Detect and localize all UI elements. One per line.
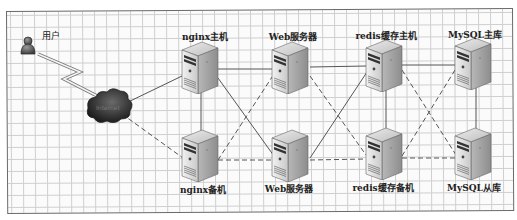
connection-lines: Internet: [0, 0, 517, 220]
edge-web1-redis-backup: [310, 76, 366, 155]
server-icon-redis-master: [366, 40, 402, 92]
node-label-web-2: Web服务器: [265, 182, 313, 195]
edge-cloud-nginx-backup: [122, 114, 183, 158]
server-icon-nginx-backup: [182, 130, 218, 182]
edge-web1-redis-master: [310, 66, 367, 67]
lightning-link: [38, 54, 105, 100]
node-label-mysql-master: MySQL主库: [448, 28, 502, 41]
user-label: 用户: [42, 29, 60, 42]
node-label-redis-master: redis缓存主机: [355, 29, 416, 42]
server-icon-mysql-slave: [455, 128, 491, 180]
server-icon-nginx-master: [182, 42, 218, 94]
server-icon-mysql-master: [455, 38, 491, 90]
user-icon: [21, 37, 35, 54]
node-label-web-1: Web服务器: [269, 30, 317, 43]
node-label-redis-backup: redis缓存备机: [352, 181, 413, 194]
network-diagram: Internet: [0, 0, 517, 220]
edge-redis-backup-mysql-master: [402, 70, 455, 156]
edge-web2-redis-backup: [310, 159, 366, 160]
edge-cloud-nginx-master: [124, 76, 182, 104]
server-icon-redis-backup: [366, 128, 402, 180]
node-label-nginx-master: nginx主机: [182, 30, 228, 43]
server-icon-web-2: [272, 130, 308, 182]
node-label-nginx-backup: nginx备机: [180, 183, 226, 196]
cloud-label: Internet: [96, 104, 120, 111]
node-label-mysql-slave: MySQL从库: [447, 181, 501, 194]
edge-nginx-backup-web1: [218, 74, 274, 160]
server-icon-web-1: [272, 42, 308, 94]
